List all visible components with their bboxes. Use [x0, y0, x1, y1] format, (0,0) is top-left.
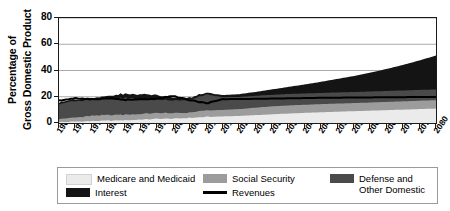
plot-area — [58, 17, 437, 124]
stacked-area-plot — [59, 18, 436, 123]
y-tick-label: 40 — [30, 65, 52, 75]
legend-label-medicare: Medicare and Medicaid — [97, 173, 195, 184]
y-tick-label: 20 — [30, 91, 52, 101]
legend-swatch-interest — [66, 188, 90, 197]
legend-item-medicare: Medicare and Medicaid — [66, 173, 195, 185]
legend-label-social-security: Social Security — [232, 173, 295, 184]
legend-swatch-defense — [330, 174, 354, 183]
legend-label-defense: Defense and Other Domestic — [359, 173, 425, 195]
y-tick-label: 60 — [30, 38, 52, 48]
legend-swatch-revenues — [203, 191, 227, 194]
legend-item-revenues: Revenues — [203, 187, 275, 198]
legend-item-social-security: Social Security — [203, 173, 295, 184]
legend-swatch-medicare — [66, 174, 92, 185]
legend-label-revenues: Revenues — [232, 187, 275, 198]
legend-item-interest: Interest — [66, 187, 127, 198]
y-tick-label: 0 — [30, 117, 52, 127]
y-tick-label: 80 — [30, 12, 52, 22]
chart-legend: Medicare and Medicaid Interest Social Se… — [57, 167, 438, 204]
legend-item-defense: Defense and Other Domestic — [330, 173, 425, 195]
legend-label-interest: Interest — [95, 187, 127, 198]
legend-swatch-social-security — [203, 174, 227, 183]
